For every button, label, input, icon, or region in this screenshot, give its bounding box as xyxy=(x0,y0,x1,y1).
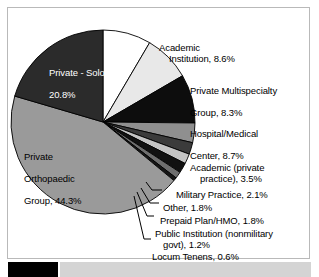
pie-chart-figure: Private - Solo, 20.8% Private Orthopaedi… xyxy=(0,0,319,277)
slice-label-academic-institution: Academic Institution, 8.6% xyxy=(159,31,279,75)
slice-label-private-orthopaedic-group: Private Orthopaedic Group, 44.3% xyxy=(24,140,124,206)
slice-label-private-multispecialty-group: Private Multispecialty Group, 8.3% xyxy=(190,74,318,118)
bottom-bar-gray-strip xyxy=(60,262,311,277)
bottom-bar xyxy=(8,262,311,277)
bottom-bar-black-block xyxy=(8,262,58,277)
slice-label-private-solo: Private - Solo, 20.8% xyxy=(49,56,149,100)
slice-label-locum-tenens: Locum Tenens, 0.6% xyxy=(152,240,312,262)
